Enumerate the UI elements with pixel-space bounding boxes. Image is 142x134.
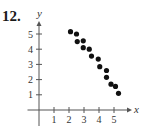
y-tick-label: 1 [28, 89, 33, 100]
data-point [113, 84, 118, 89]
axes: xy1234512345 [28, 7, 140, 126]
y-tick-label: 2 [28, 74, 33, 85]
y-axis-label: y [36, 7, 42, 19]
y-axis-arrow-icon [37, 21, 42, 26]
data-point [81, 38, 86, 43]
x-tick-label: 5 [112, 114, 117, 125]
data-point [75, 39, 80, 44]
x-tick-label: 3 [82, 114, 87, 125]
data-point [104, 68, 109, 73]
data-points [68, 29, 121, 96]
data-point [108, 82, 113, 87]
data-point [68, 29, 73, 34]
data-point [104, 75, 109, 80]
data-point [97, 64, 102, 69]
data-point [81, 45, 86, 50]
data-point [74, 31, 79, 36]
scatter-plot: xy1234512345 [0, 0, 142, 134]
y-tick-label: 3 [28, 59, 33, 70]
data-point [89, 53, 94, 58]
x-tick-label: 1 [52, 114, 57, 125]
x-tick-label: 2 [67, 114, 72, 125]
x-tick-label: 4 [97, 114, 102, 125]
data-point [87, 47, 92, 52]
x-axis-arrow-icon [127, 108, 132, 113]
x-axis-label: x [133, 103, 139, 115]
data-point [116, 91, 121, 96]
data-point [96, 56, 101, 61]
y-tick-label: 5 [28, 29, 33, 40]
y-tick-label: 4 [28, 44, 33, 55]
